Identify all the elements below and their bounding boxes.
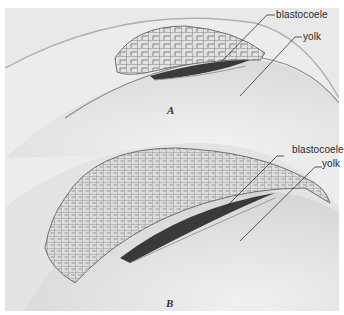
panel-a-drawing <box>5 8 339 158</box>
panel-b-drawing <box>5 143 339 311</box>
figure-frame <box>5 8 339 311</box>
label-a-yolk: yolk <box>303 31 321 42</box>
embryo-illustration <box>5 8 339 311</box>
panel-letter-a: A <box>167 104 174 116</box>
label-a-blastocoele: blastocoele <box>276 9 328 20</box>
label-b-blastocoele: blastocoele <box>292 144 344 155</box>
label-b-yolk: yolk <box>322 158 340 169</box>
panel-letter-b: B <box>166 297 173 309</box>
